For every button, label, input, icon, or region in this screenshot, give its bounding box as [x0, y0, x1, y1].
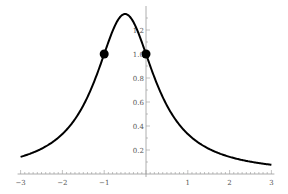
y-tick-label: 0.4 [133, 123, 145, 131]
x-tick-label: 3 [269, 179, 273, 187]
x-tick-label: 2 [227, 179, 231, 187]
data-point [100, 50, 109, 59]
y-tick-label: 0.6 [133, 99, 145, 107]
x-tick-label: −1 [99, 179, 109, 187]
axes [18, 6, 275, 177]
highlighted-points [100, 50, 151, 59]
data-point [142, 50, 151, 59]
y-tick-label: 0.2 [133, 147, 144, 155]
x-tick-label: 1 [186, 179, 190, 187]
x-tick-label: −2 [57, 179, 67, 187]
x-tick-label: −3 [15, 179, 25, 187]
line-chart: −3−2−11230.20.40.60.81.01.2 [0, 0, 288, 194]
y-tick-label: 0.8 [133, 75, 144, 83]
